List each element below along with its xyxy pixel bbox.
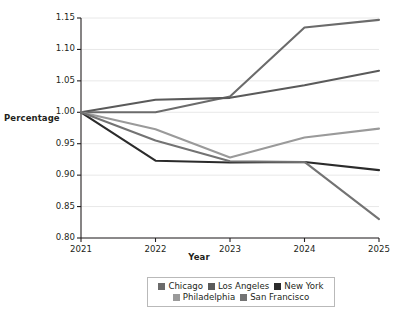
legend-label: Chicago	[168, 281, 203, 292]
y-tick-label: 1.00	[39, 106, 75, 116]
y-tick-label: 0.95	[39, 138, 75, 148]
line-chart: Percentage Year 0.800.850.900.951.001.05…	[0, 0, 398, 322]
legend-item-san-francisco[interactable]: San Francisco	[240, 292, 309, 303]
x-tick-label: 2025	[357, 244, 398, 254]
legend-swatch-icon	[274, 283, 281, 290]
legend-swatch-icon	[240, 294, 247, 301]
legend-label: Philadelphia	[183, 292, 235, 303]
y-tick-label: 0.90	[39, 169, 75, 179]
chart-legend: ChicagoLos AngelesNew YorkPhiladelphiaSa…	[147, 277, 335, 307]
legend-item-philadelphia[interactable]: Philadelphia	[173, 292, 235, 303]
x-tick-label: 2021	[59, 244, 103, 254]
legend-swatch-icon	[208, 283, 215, 290]
y-tick-label: 1.15	[39, 12, 75, 22]
y-tick-label: 0.80	[39, 232, 75, 242]
y-tick-label: 1.05	[39, 75, 75, 85]
x-tick-label: 2024	[283, 244, 327, 254]
legend-item-new-york[interactable]: New York	[274, 281, 323, 292]
series-line-los-angeles	[81, 71, 379, 112]
y-tick-label: 1.10	[39, 43, 75, 53]
x-tick-label: 2022	[134, 244, 178, 254]
series-line-philadelphia	[81, 112, 379, 157]
y-tick-label: 0.85	[39, 201, 75, 211]
legend-label: San Francisco	[250, 292, 309, 303]
legend-swatch-icon	[173, 294, 180, 301]
legend-item-chicago[interactable]: Chicago	[158, 281, 203, 292]
x-tick-label: 2023	[208, 244, 252, 254]
legend-label: New York	[284, 281, 323, 292]
legend-item-los-angeles[interactable]: Los Angeles	[208, 281, 269, 292]
legend-row: ChicagoLos AngelesNew York	[152, 281, 330, 292]
legend-swatch-icon	[158, 283, 165, 290]
legend-label: Los Angeles	[218, 281, 269, 292]
legend-row: PhiladelphiaSan Francisco	[152, 292, 330, 303]
